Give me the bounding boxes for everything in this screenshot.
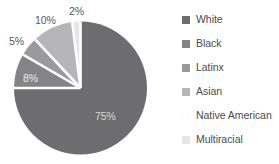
legend-label-native-american: Native American bbox=[196, 110, 272, 121]
slice-label-asian: 10% bbox=[35, 15, 56, 26]
legend-label-white: White bbox=[196, 14, 223, 25]
legend-item-asian[interactable]: Asian bbox=[182, 85, 222, 98]
legend-label-black: Black bbox=[196, 38, 221, 49]
legend-item-native-american[interactable]: Native American bbox=[182, 109, 272, 122]
chart-legend: White Black Latinx Asian Native American… bbox=[182, 0, 279, 164]
legend-swatch-multiracial bbox=[182, 136, 190, 144]
legend-item-latinx[interactable]: Latinx bbox=[182, 61, 224, 74]
slice-label-multiracial: 2% bbox=[69, 6, 84, 17]
legend-swatch-white bbox=[182, 16, 190, 24]
pie-chart-figure: 75% 8% 5% 10% 2% White Black Latinx Asia… bbox=[0, 0, 279, 164]
legend-swatch-black bbox=[182, 40, 190, 48]
legend-swatch-asian bbox=[182, 88, 190, 96]
slice-label-white: 75% bbox=[95, 111, 116, 122]
legend-label-asian: Asian bbox=[196, 86, 222, 97]
pie-plot-area: 75% 8% 5% 10% 2% bbox=[0, 0, 180, 164]
legend-item-multiracial[interactable]: Multiracial bbox=[182, 133, 243, 146]
slice-label-black: 8% bbox=[23, 73, 38, 84]
legend-swatch-latinx bbox=[182, 64, 190, 72]
legend-item-white[interactable]: White bbox=[182, 13, 223, 26]
legend-item-black[interactable]: Black bbox=[182, 37, 221, 50]
legend-label-latinx: Latinx bbox=[196, 62, 224, 73]
legend-label-multiracial: Multiracial bbox=[196, 134, 243, 145]
slice-label-latinx: 5% bbox=[9, 36, 24, 47]
legend-swatch-native-american bbox=[182, 112, 190, 120]
